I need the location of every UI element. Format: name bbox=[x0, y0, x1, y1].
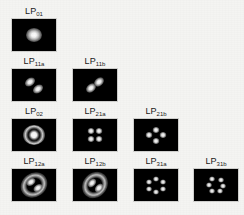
beam-lobe bbox=[26, 28, 42, 42]
mode-label-lp12b: LP12b bbox=[84, 156, 105, 167]
mode-panel-lp01 bbox=[11, 18, 57, 52]
mode-panel-lp21b bbox=[133, 118, 179, 152]
intensity-field-lp21a bbox=[73, 119, 117, 151]
beam-lobe bbox=[96, 128, 103, 134]
intensity-field-lp02 bbox=[12, 119, 56, 151]
lp-mode-gallery: LP01 LP11a LP11b LP02 bbox=[0, 0, 244, 215]
beam-lobe bbox=[209, 176, 215, 181]
intensity-field-lp01 bbox=[12, 19, 56, 51]
beam-lobe bbox=[88, 128, 95, 134]
mode-label-lp31b: LP31b bbox=[205, 156, 226, 167]
mode-cell-lp21a: LP21a bbox=[72, 106, 118, 152]
intensity-field-lp11b bbox=[73, 69, 117, 101]
beam-lobe bbox=[160, 186, 166, 191]
beam-lobe bbox=[159, 132, 166, 138]
beam-lobe bbox=[146, 132, 153, 138]
intensity-field-lp12a bbox=[12, 169, 56, 201]
mode-panel-lp21a bbox=[72, 118, 118, 152]
mode-cell-lp11b: LP11b bbox=[72, 56, 118, 102]
mode-cell-lp21b: LP21b bbox=[133, 106, 179, 152]
mode-panel-lp02 bbox=[11, 118, 57, 152]
mode-cell-lp01: LP01 bbox=[11, 6, 57, 52]
beam-lobe bbox=[88, 136, 95, 142]
mode-label-lp01: LP01 bbox=[25, 6, 43, 17]
beam-lobe bbox=[209, 188, 215, 193]
mode-cell-lp31a: LP31a bbox=[133, 156, 179, 202]
mode-label-lp12a: LP12a bbox=[23, 156, 44, 167]
beam-lobe bbox=[32, 82, 46, 95]
beam-lobe bbox=[217, 189, 223, 194]
beam-lobe bbox=[146, 186, 152, 191]
beam-lobe bbox=[153, 138, 160, 144]
intensity-field-lp11a bbox=[12, 69, 56, 101]
beam-lobe bbox=[153, 190, 159, 195]
beam-lobe bbox=[153, 176, 159, 181]
mode-panel-lp31b bbox=[193, 168, 239, 202]
mode-cell-lp12b: LP12b bbox=[72, 156, 118, 202]
intensity-field-lp31b bbox=[194, 169, 238, 201]
mode-label-lp11a: LP11a bbox=[24, 56, 45, 67]
mode-panel-lp11a bbox=[11, 68, 57, 102]
beam-ring bbox=[23, 125, 45, 145]
intensity-field-lp12b bbox=[73, 169, 117, 201]
beam-lobe bbox=[146, 180, 152, 185]
intensity-field-lp31a bbox=[134, 169, 178, 201]
mode-label-lp31a: LP31a bbox=[145, 156, 166, 167]
mode-panel-lp31a bbox=[133, 168, 179, 202]
mode-panel-lp11b bbox=[72, 68, 118, 102]
mode-panel-lp12a bbox=[11, 168, 57, 202]
mode-label-lp21a: LP21a bbox=[84, 106, 105, 117]
beam-lobe bbox=[206, 183, 212, 188]
mode-cell-lp02: LP02 bbox=[11, 106, 57, 152]
mode-label-lp11b: LP11b bbox=[85, 56, 106, 67]
mode-label-lp02: LP02 bbox=[25, 106, 43, 117]
mode-cell-lp31b: LP31b bbox=[193, 156, 239, 202]
beam-lobe bbox=[153, 127, 160, 133]
intensity-field-lp21b bbox=[134, 119, 178, 151]
mode-cell-lp11a: LP11a bbox=[11, 56, 57, 102]
beam-lobe bbox=[160, 180, 166, 185]
mode-panel-lp12b bbox=[72, 168, 118, 202]
beam-lobe bbox=[96, 136, 103, 142]
mode-cell-lp12a: LP12a bbox=[11, 156, 57, 202]
beam-lobe bbox=[218, 177, 224, 182]
beam-arc bbox=[77, 168, 114, 202]
beam-lobe bbox=[220, 184, 226, 189]
mode-label-lp21b: LP21b bbox=[145, 106, 166, 117]
